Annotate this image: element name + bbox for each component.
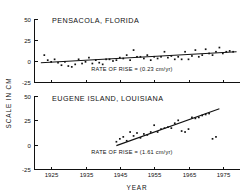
data-point bbox=[160, 56, 162, 58]
data-point bbox=[184, 131, 186, 133]
data-point bbox=[136, 132, 138, 134]
y-tick-label: -25 bbox=[22, 80, 32, 86]
data-point bbox=[126, 54, 128, 56]
rate-of-rise-annotation: RATE OF RISE = (1.61 cm/yr) bbox=[91, 149, 172, 155]
data-point bbox=[78, 58, 80, 60]
data-point bbox=[102, 64, 104, 66]
data-point bbox=[198, 56, 200, 58]
data-point bbox=[232, 51, 234, 53]
x-tick-label: 1975 bbox=[217, 172, 231, 178]
panel-title: PENSACOLA, FLORIDA bbox=[52, 16, 139, 25]
data-point bbox=[205, 114, 207, 116]
x-tick-label: 1925 bbox=[45, 172, 59, 178]
data-point bbox=[64, 61, 66, 63]
trend-line bbox=[41, 52, 237, 63]
rate-of-rise-annotation: RATE OF RISE = (0.23 cm/yr) bbox=[91, 66, 172, 72]
data-point bbox=[122, 136, 124, 138]
data-point bbox=[129, 131, 131, 133]
x-tick-label: 1935 bbox=[80, 172, 94, 178]
data-point bbox=[215, 136, 217, 138]
data-point bbox=[167, 57, 169, 59]
y-tick-label: 50 bbox=[24, 94, 31, 100]
figure-container: SCALE IN CM -2502550PENSACOLA, FLORIDARA… bbox=[0, 0, 244, 195]
y-tick-label: 0 bbox=[28, 143, 32, 149]
data-point bbox=[126, 140, 128, 142]
data-point bbox=[167, 126, 169, 128]
data-point bbox=[88, 57, 90, 59]
data-point bbox=[222, 53, 224, 55]
data-point bbox=[119, 57, 121, 59]
data-point bbox=[215, 51, 217, 53]
data-point bbox=[61, 64, 63, 66]
data-point bbox=[188, 128, 190, 130]
data-point bbox=[71, 66, 73, 68]
data-point bbox=[143, 58, 145, 60]
data-point bbox=[219, 47, 221, 49]
data-point bbox=[81, 63, 83, 65]
data-point bbox=[119, 138, 121, 140]
x-tick-label: 1945 bbox=[114, 172, 128, 178]
data-point bbox=[85, 61, 87, 63]
data-point bbox=[95, 59, 97, 61]
data-point bbox=[146, 134, 148, 136]
data-point bbox=[212, 54, 214, 56]
data-point bbox=[201, 54, 203, 56]
data-point bbox=[208, 53, 210, 55]
data-point bbox=[92, 63, 94, 65]
data-point bbox=[191, 117, 193, 119]
data-point bbox=[146, 54, 148, 56]
data-point bbox=[229, 50, 231, 52]
data-point bbox=[50, 61, 52, 63]
data-point bbox=[136, 56, 138, 58]
data-point bbox=[177, 56, 179, 58]
data-point bbox=[164, 127, 166, 129]
data-point bbox=[122, 58, 124, 60]
data-point bbox=[153, 124, 155, 126]
data-point bbox=[116, 59, 118, 61]
data-point bbox=[198, 117, 200, 119]
data-point bbox=[181, 58, 183, 60]
y-tick-label: 25 bbox=[24, 118, 31, 124]
panel-pensacola-florida: -2502550PENSACOLA, FLORIDARATE OF RISE =… bbox=[22, 16, 240, 86]
data-point bbox=[133, 135, 135, 137]
data-point bbox=[195, 118, 197, 120]
sea-level-chart-svg: SCALE IN CM -2502550PENSACOLA, FLORIDARA… bbox=[0, 0, 244, 195]
data-point bbox=[129, 59, 131, 61]
data-point bbox=[143, 133, 145, 135]
data-point bbox=[140, 137, 142, 139]
data-point bbox=[105, 58, 107, 60]
x-tick-label: 1965 bbox=[183, 172, 197, 178]
data-point bbox=[174, 58, 176, 60]
data-point bbox=[174, 122, 176, 124]
x-tick-label: 1955 bbox=[148, 172, 162, 178]
data-point bbox=[157, 58, 159, 60]
data-point bbox=[150, 59, 152, 61]
x-axis-title-group: YEAR bbox=[126, 184, 147, 191]
data-point bbox=[191, 55, 193, 57]
data-point bbox=[170, 55, 172, 57]
data-point bbox=[184, 51, 186, 53]
data-point bbox=[140, 56, 142, 58]
data-point bbox=[133, 49, 135, 51]
y-tick-label: 25 bbox=[24, 38, 31, 44]
data-point bbox=[181, 130, 183, 132]
data-point bbox=[160, 128, 162, 130]
data-point bbox=[54, 58, 56, 60]
data-point bbox=[177, 119, 179, 121]
data-point bbox=[116, 141, 118, 143]
data-point bbox=[112, 60, 114, 62]
data-point bbox=[109, 58, 111, 60]
data-point bbox=[98, 62, 100, 64]
y-tick-label: 50 bbox=[24, 17, 31, 23]
data-point bbox=[208, 113, 210, 115]
data-point bbox=[67, 65, 69, 67]
data-point bbox=[201, 115, 203, 117]
data-point bbox=[43, 54, 45, 56]
data-point bbox=[57, 62, 59, 64]
panel-eugene-island-louisiana: -2502550192519351945195519651975EUGENE I… bbox=[22, 94, 240, 178]
x-axis-title: YEAR bbox=[126, 184, 147, 191]
data-point bbox=[157, 131, 159, 133]
data-point bbox=[225, 51, 227, 53]
data-point bbox=[170, 127, 172, 129]
data-point bbox=[212, 138, 214, 140]
